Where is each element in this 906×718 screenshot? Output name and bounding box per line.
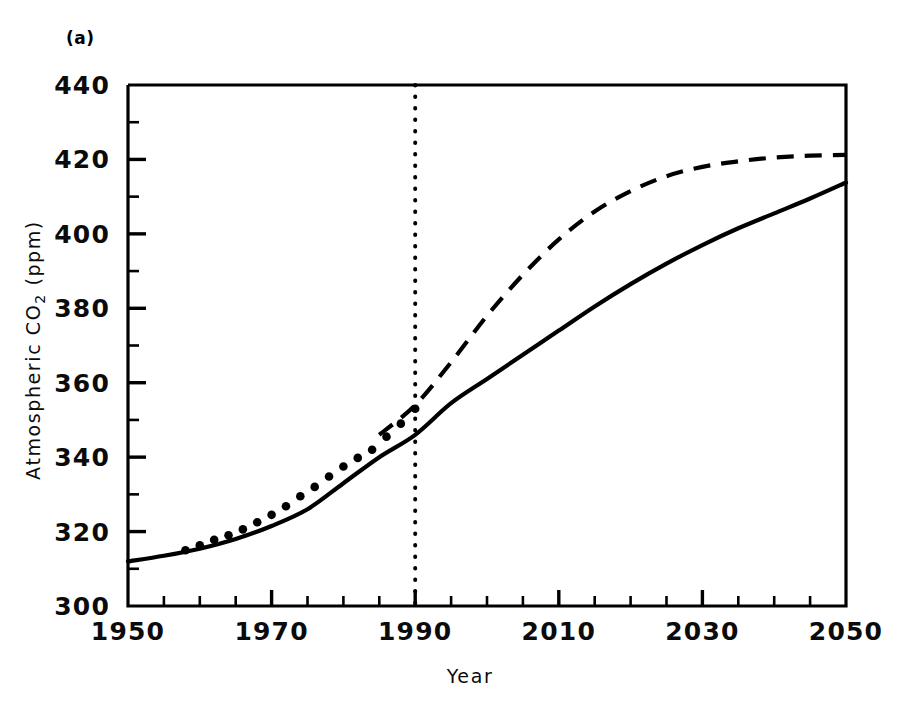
axis-frame: [128, 85, 846, 606]
y-axis-ticks: [128, 122, 146, 569]
data-point: [325, 472, 334, 481]
data-point: [296, 492, 305, 501]
y-axis-tick-labels: 300320340360380400420440: [54, 71, 110, 621]
panel-label: (a): [66, 28, 95, 48]
x-tick-label: 1970: [234, 617, 308, 646]
series-low-emissions-scenario: [128, 183, 846, 562]
data-point: [382, 432, 391, 441]
series-observed-co2-measurements: [181, 404, 419, 554]
y-axis-title-text: Atmospheric CO2 (ppm): [22, 220, 48, 480]
x-tick-label: 1950: [91, 617, 165, 646]
x-axis-ticks: [164, 590, 810, 606]
y-axis-title: Atmospheric CO2 (ppm): [22, 220, 48, 480]
data-point: [181, 546, 190, 555]
x-axis-tick-labels: 195019701990201020302050: [91, 617, 883, 646]
data-point: [224, 531, 233, 540]
data-point: [353, 454, 362, 463]
y-tick-label: 420: [54, 145, 110, 174]
y-tick-label: 300: [54, 592, 110, 621]
y-tick-label: 400: [54, 220, 110, 249]
data-point: [196, 541, 205, 550]
data-point: [368, 445, 377, 454]
data-point: [339, 462, 348, 471]
x-tick-label: 2030: [665, 617, 739, 646]
data-point: [411, 404, 420, 413]
figure-panel: (a) 195019701990201020302050 30032034036…: [0, 0, 906, 718]
data-point: [210, 535, 219, 544]
co2-projection-chart: 195019701990201020302050 300320340360380…: [0, 0, 906, 718]
y-axis-title-pre: Atmospheric CO: [22, 304, 44, 480]
y-axis-title-subscript: 2: [32, 293, 48, 304]
x-axis-title-text: Year: [446, 665, 494, 687]
data-point: [267, 511, 276, 520]
x-axis-title: Year: [446, 665, 494, 687]
y-axis-title-post: (ppm): [22, 220, 44, 293]
y-tick-label: 340: [54, 443, 110, 472]
data-point: [282, 502, 291, 511]
y-tick-label: 360: [54, 369, 110, 398]
x-tick-label: 1990: [378, 617, 452, 646]
data-point: [253, 518, 262, 527]
x-tick-label: 2050: [809, 617, 883, 646]
data-point: [310, 483, 319, 492]
data-point: [239, 525, 248, 534]
data-point: [397, 419, 406, 428]
y-tick-label: 320: [54, 518, 110, 547]
x-tick-label: 2010: [522, 617, 596, 646]
y-tick-label: 380: [54, 294, 110, 323]
y-tick-label: 440: [54, 71, 110, 100]
